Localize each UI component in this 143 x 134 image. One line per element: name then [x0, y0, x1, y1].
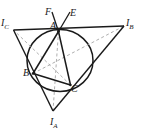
label-vertex-b: B — [23, 68, 29, 78]
vertex-b-dot — [32, 72, 34, 74]
label-vertex-c: C — [71, 84, 78, 94]
figure-canvas — [0, 0, 143, 134]
label-point-f: F — [45, 7, 51, 17]
geometry-figure: IC IB IA A B C E F — [0, 0, 143, 134]
label-point-e: E — [70, 8, 76, 18]
label-vertex-a: A — [50, 21, 56, 31]
label-excenter-ia: IA — [50, 117, 58, 131]
label-ia-sub: A — [53, 122, 57, 130]
label-ic-sub: C — [4, 23, 9, 31]
label-excenter-ib: IB — [126, 18, 134, 32]
vertex-a-dot — [57, 30, 60, 33]
label-ib-sub: B — [129, 23, 133, 31]
bisector-a-line — [53, 32, 59, 112]
triangle-side-ca — [59, 32, 71, 86]
label-excenter-ic: IC — [1, 18, 9, 32]
excentral-side-ib-ia — [53, 26, 124, 111]
excentral-side-ic-ib — [14, 26, 125, 30]
